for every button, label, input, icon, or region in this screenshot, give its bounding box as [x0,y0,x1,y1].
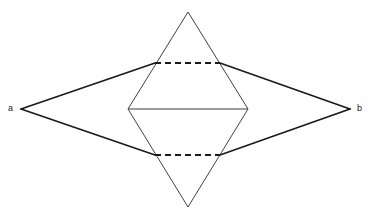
geometry-figure-canvas: a b [0,0,372,219]
lower-triangle-left-edge [128,109,188,207]
rhombus-upper-right-edge [220,63,350,109]
geometry-diagram [0,0,372,219]
rhombus-lower-right-edge [220,109,350,155]
lower-triangle-right-edge [188,109,248,207]
rhombus-upper-left-edge [21,63,155,109]
vertex-label-b: b [357,104,362,113]
upper-triangle-right-edge [188,12,248,109]
rhombus-lower-left-edge [21,109,155,155]
vertex-label-a: a [8,104,13,113]
upper-triangle-left-edge [128,12,188,109]
